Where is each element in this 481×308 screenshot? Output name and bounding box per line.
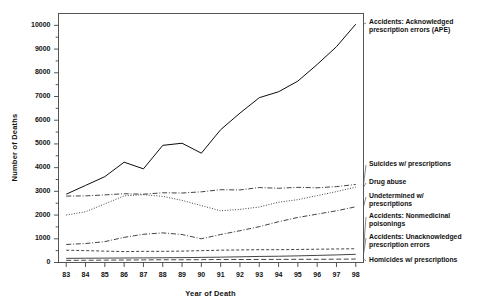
y-axis-tick-label: 7000 xyxy=(11,92,51,99)
y-axis-tick-label: 6000 xyxy=(11,116,51,123)
series-line xyxy=(66,187,356,215)
series-line xyxy=(66,184,356,196)
y-axis-tick-label: 1000 xyxy=(11,234,51,241)
chart-figure: Number of Deaths Year of Death 010002000… xyxy=(0,0,481,308)
legend-label: Suicides w/ prescriptions xyxy=(369,160,481,168)
y-axis-tick-label: 3000 xyxy=(11,187,51,194)
y-axis-tick-label: 4000 xyxy=(11,163,51,170)
legend-label: Accidents: Unacknowledged prescription e… xyxy=(369,233,481,249)
series-line xyxy=(66,249,356,252)
y-axis-tick-label: 8000 xyxy=(11,68,51,75)
y-axis-tick-label: 2000 xyxy=(11,211,51,218)
axis-ticks xyxy=(54,25,356,267)
y-axis-tick-label: 9000 xyxy=(11,45,51,52)
series-line xyxy=(66,254,356,258)
legend-label: Accidents: Nonmedicinal poisonings xyxy=(369,212,481,228)
y-axis-tick-label: 0 xyxy=(11,258,51,265)
x-axis-tick-label: 98 xyxy=(344,271,368,278)
legend-label: Undetermined w/ prescriptions xyxy=(369,192,481,208)
series-line xyxy=(66,24,356,194)
y-axis-tick-label: 10000 xyxy=(11,21,51,28)
legend-label: Accidents: Acknowledged prescription err… xyxy=(369,18,481,34)
legend-label: Drug abuse xyxy=(369,178,481,186)
data-series xyxy=(66,24,356,260)
x-axis-title: Year of Death xyxy=(58,289,363,298)
series-line xyxy=(66,207,356,245)
legend-label: Homicides w/ prescriptions xyxy=(369,256,481,264)
plot-frame xyxy=(59,14,364,263)
series-line xyxy=(66,259,356,260)
y-axis-tick-label: 5000 xyxy=(11,139,51,146)
